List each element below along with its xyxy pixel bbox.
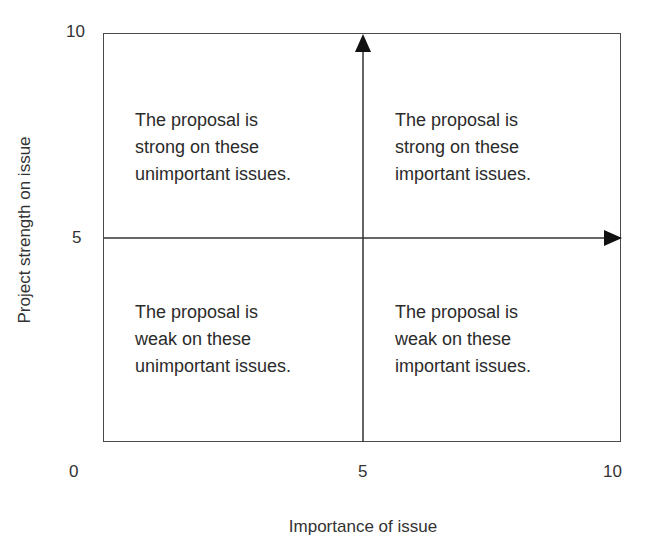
y-axis-label: Project strength on issue: [15, 136, 35, 323]
x-tick-0: 0: [69, 462, 78, 482]
x-axis-label: Importance of issue: [289, 517, 437, 537]
x-tick-5: 5: [358, 462, 367, 482]
right-arrowhead-icon: [604, 230, 622, 246]
quadrant-bottom-right: The proposal is weak on these important …: [395, 299, 531, 380]
axis-arrows: [0, 0, 648, 539]
y-tick-5: 5: [72, 228, 81, 248]
quadrant-top-right: The proposal is strong on these importan…: [395, 107, 531, 188]
up-arrowhead-icon: [355, 34, 371, 52]
x-tick-10: 10: [603, 462, 622, 482]
quadrant-bottom-left: The proposal is weak on these unimportan…: [135, 299, 291, 380]
y-tick-10: 10: [66, 22, 85, 42]
quadrant-top-left: The proposal is strong on these unimport…: [135, 107, 291, 188]
